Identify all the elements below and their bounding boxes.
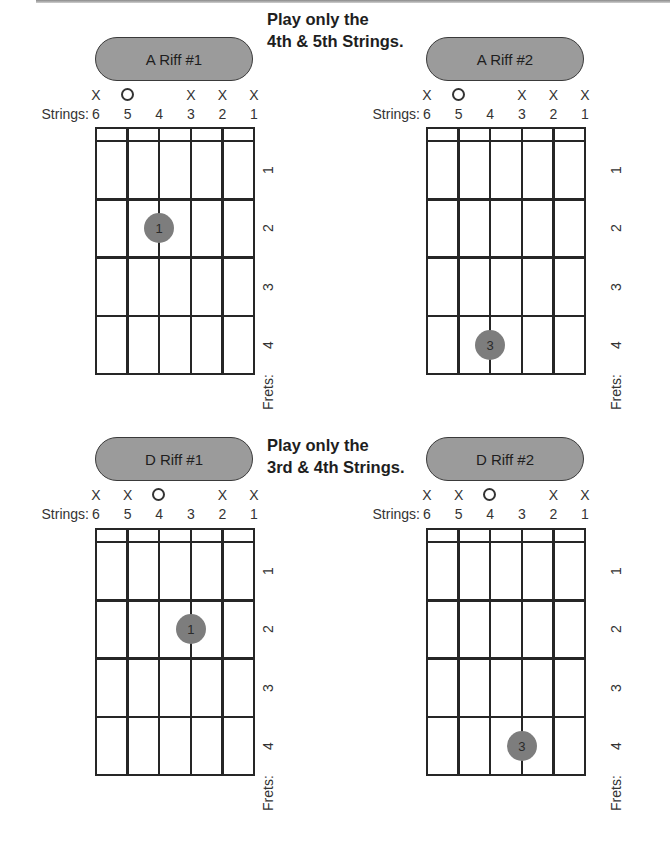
string-line: [584, 529, 586, 775]
fret-line: [426, 774, 586, 777]
string-line: [552, 529, 554, 775]
fret-line: [426, 528, 586, 531]
string-number: 1: [575, 506, 595, 522]
muted-string-icon: X: [543, 487, 563, 503]
fretboard-grid: [427, 529, 585, 775]
chord-chart-d-riff-2: D Riff #2XXXXStrings:65432131234Frets:: [0, 0, 670, 852]
finger-dot: 3: [507, 731, 537, 761]
open-string-icon: [483, 488, 496, 501]
string-number: 3: [512, 506, 532, 522]
string-line: [426, 529, 428, 775]
fret-number: 3: [608, 678, 624, 698]
string-line: [457, 529, 459, 775]
fret-number: 4: [608, 736, 624, 756]
frets-label: Frets:: [608, 775, 624, 811]
muted-string-icon: X: [575, 487, 595, 503]
fret-line: [426, 599, 586, 602]
chart-title-pill: D Riff #2: [426, 437, 584, 481]
fret-line: [426, 657, 586, 660]
string-number: 4: [480, 506, 500, 522]
string-number: 6: [417, 506, 437, 522]
string-number: 2: [543, 506, 563, 522]
fret-number: 1: [608, 561, 624, 581]
nut-line: [426, 541, 586, 544]
strings-label: Strings:: [340, 506, 420, 522]
muted-string-icon: X: [449, 487, 469, 503]
muted-string-icon: X: [417, 487, 437, 503]
fret-line: [426, 716, 586, 719]
string-number: 5: [449, 506, 469, 522]
string-line: [489, 529, 491, 775]
fret-number: 2: [608, 619, 624, 639]
